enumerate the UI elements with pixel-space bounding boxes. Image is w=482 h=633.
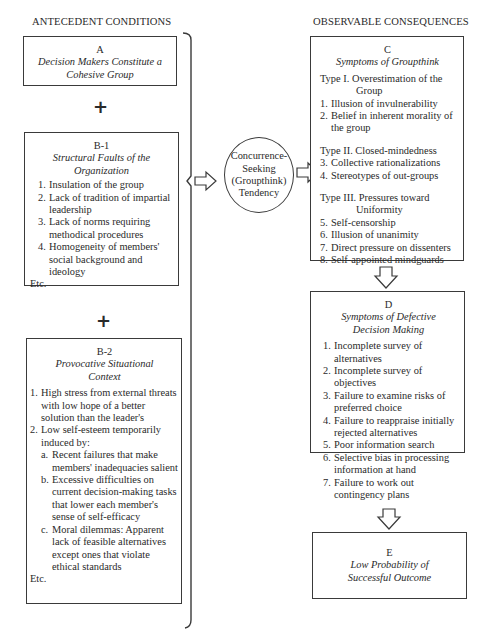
box-d-defective-decision-making: D Symptoms of Defective Decision Making … <box>310 291 465 453</box>
type-1-group: Type I. Overestimation of the Group 1.Il… <box>320 73 461 135</box>
box-d-title-1: Symptoms of Defective <box>315 311 462 323</box>
box-e-letter: E <box>313 547 466 559</box>
box-c-title: Symptoms of Groupthink <box>314 56 461 68</box>
list-item: 6.Illusion of unanimity <box>320 229 461 241</box>
list-item: 7.Failure to work out contingency plans <box>323 477 462 502</box>
arrow-right-icon <box>194 171 218 191</box>
circle-line-1: Concurrence- <box>231 150 288 162</box>
arrow-down-icon <box>377 508 401 532</box>
list-item: 4.Failure to reappraise initially reject… <box>323 415 462 440</box>
box-d-letter: D <box>315 299 462 311</box>
list-item: 5.Self-censorship <box>320 217 461 229</box>
arrow-down-icon <box>374 266 398 290</box>
list-item: 1.Illusion of invulnerability <box>320 98 461 110</box>
type-1-cont: Group <box>320 85 461 97</box>
type-3-label: Type III. Pressures toward <box>320 192 461 204</box>
box-d-title-2: Decision Making <box>315 324 462 336</box>
list-item: 2.Incomplete survey of objectives <box>323 365 462 390</box>
list-item: 5.Poor information search <box>323 439 462 451</box>
circle-line-4: Tendency <box>231 187 288 199</box>
list-item: 6.Selective bias in processing informati… <box>323 452 462 477</box>
type-1-label: Type I. Overestimation of the <box>320 73 461 85</box>
list-item: 8.Self-appointed mindguards <box>320 254 461 266</box>
list-item: 4.Stereotypes of out-groups <box>320 170 461 182</box>
type-2-label: Type II. Closed-mindedness <box>320 145 461 157</box>
concurrence-seeking-circle: Concurrence- Seeking (Groupthink) Tenden… <box>224 137 294 213</box>
type-3-group: Type III. Pressures toward Uniformity 5.… <box>320 192 461 266</box>
list-item: 3.Collective rationalizations <box>320 157 461 169</box>
list-item: 3.Failure to examine risks of preferred … <box>323 390 462 415</box>
box-c-symptoms-of-groupthink: C Symptoms of Groupthink Type I. Overest… <box>310 36 464 261</box>
box-e-low-probability-outcome: E Low Probability of Successful Outcome <box>312 532 467 599</box>
type-3-cont: Uniformity <box>320 204 461 216</box>
box-d-list: 1.Incomplete survey of alternatives 2.In… <box>323 340 462 501</box>
type-2-group: Type II. Closed-mindedness 3.Collective … <box>320 145 461 182</box>
box-e-title-2: Successful Outcome <box>313 572 466 584</box>
circle-line-3: (Groupthink) <box>231 175 288 187</box>
box-e-title-1: Low Probability of <box>313 559 466 571</box>
list-item: 1.Incomplete survey of alternatives <box>323 340 462 365</box>
box-c-letter: C <box>314 44 461 56</box>
list-item: 2.Belief in inherent morality of the gro… <box>320 110 461 135</box>
circle-line-2: Seeking <box>231 163 288 175</box>
list-item: 7.Direct pressure on dissenters <box>320 242 461 254</box>
